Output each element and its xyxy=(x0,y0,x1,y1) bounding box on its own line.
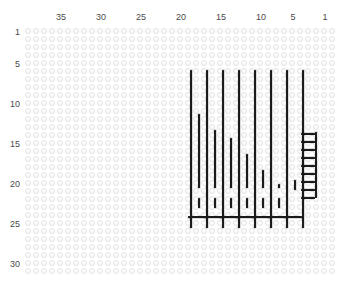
column-rail-4 xyxy=(238,70,240,228)
top-axis-tick: 15 xyxy=(216,12,226,22)
dash-5 xyxy=(262,198,264,208)
ladder-rung-9 xyxy=(301,197,315,199)
stair-bar-4 xyxy=(246,154,248,188)
ladder-rung-8 xyxy=(301,189,315,191)
left-axis-tick: 5 xyxy=(0,59,20,69)
ladder-rung-5 xyxy=(301,165,315,167)
column-rail-1 xyxy=(190,70,192,228)
left-axis-tick: 20 xyxy=(0,179,20,189)
top-axis-tick: 5 xyxy=(290,12,295,22)
pattern-marks-layer xyxy=(25,28,337,278)
dash-3 xyxy=(230,198,232,208)
left-axis-tick: 1 xyxy=(0,27,20,37)
column-rail-3 xyxy=(222,70,224,228)
ladder-rung-1 xyxy=(301,133,315,135)
left-axis-tick: 10 xyxy=(0,99,20,109)
top-axis-tick: 20 xyxy=(176,12,186,22)
top-axis-tick: 1 xyxy=(322,12,327,22)
ladder-rung-4 xyxy=(301,157,315,159)
column-rail-7 xyxy=(286,70,288,228)
base-tick-7 xyxy=(284,216,302,218)
left-axis-tick: 25 xyxy=(0,219,20,229)
left-axis-tick: 15 xyxy=(0,139,20,149)
bead-pattern-chart: 35302520151051 151015202530 xyxy=(0,0,338,284)
top-axis-tick: 25 xyxy=(136,12,146,22)
stair-bar-3 xyxy=(230,138,232,188)
left-axis-tick: 30 xyxy=(0,259,20,269)
ladder-rung-2 xyxy=(301,141,315,143)
dash-1 xyxy=(198,198,200,208)
ladder-rung-6 xyxy=(301,173,315,175)
dash-6 xyxy=(278,198,280,208)
top-axis-tick: 30 xyxy=(96,12,106,22)
stair-bar-2 xyxy=(214,130,216,188)
top-axis-tick: 35 xyxy=(56,12,66,22)
dash-4 xyxy=(246,198,248,208)
stair-bar-5 xyxy=(262,170,264,188)
ladder-rung-3 xyxy=(301,149,315,151)
column-rail-5 xyxy=(254,70,256,228)
ladder-rung-7 xyxy=(301,181,315,183)
stair-bar-6 xyxy=(278,184,280,188)
dash-7 xyxy=(294,180,296,190)
stair-bar-1 xyxy=(198,114,200,188)
column-rail-6 xyxy=(270,70,272,228)
ladder-rail xyxy=(315,132,317,198)
column-rail-2 xyxy=(206,70,208,228)
dash-2 xyxy=(214,198,216,208)
top-axis-tick: 10 xyxy=(256,12,266,22)
